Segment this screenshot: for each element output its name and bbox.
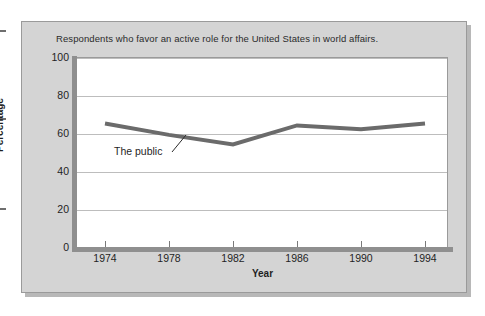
y-axis-tick-label: 40 (35, 165, 69, 177)
x-axis-tick (361, 241, 362, 247)
y-axis-tick-label: 20 (35, 203, 69, 215)
x-axis-tick (233, 241, 234, 247)
y-axis-tick-label: 100 (35, 51, 69, 63)
x-axis-label-text: Year (252, 268, 273, 279)
x-axis-tick (105, 241, 106, 247)
y-axis-line (72, 56, 77, 252)
x-axis-tick-label: 1986 (285, 252, 308, 264)
x-axis-tick (169, 241, 170, 247)
x-axis-tick (425, 241, 426, 247)
page-edge-tick (0, 208, 6, 210)
gridline (77, 58, 447, 59)
x-axis-tick-label: 1994 (413, 252, 436, 264)
x-axis-tick-label: 1974 (93, 252, 116, 264)
x-axis-tick-label: 1978 (157, 252, 180, 264)
x-axis-tick (297, 241, 298, 247)
series-annotation-label: The public (114, 145, 162, 157)
chart-title: Respondents who favor an active role for… (56, 33, 456, 44)
gridline (77, 96, 447, 97)
x-axis-line (72, 247, 453, 252)
y-axis-tick-label: 80 (35, 89, 69, 101)
y-axis-label: Percentage (0, 98, 5, 152)
y-axis-tick-label: 0 (35, 241, 69, 253)
x-axis-tick-label: 1990 (349, 252, 372, 264)
gridline (77, 172, 447, 173)
gridline (77, 134, 447, 135)
x-axis-label: Year (0, 268, 485, 279)
y-axis-tick-label: 60 (35, 127, 69, 139)
gridline (77, 210, 447, 211)
x-axis-tick-label: 1982 (221, 252, 244, 264)
page-edge-tick (0, 30, 6, 32)
